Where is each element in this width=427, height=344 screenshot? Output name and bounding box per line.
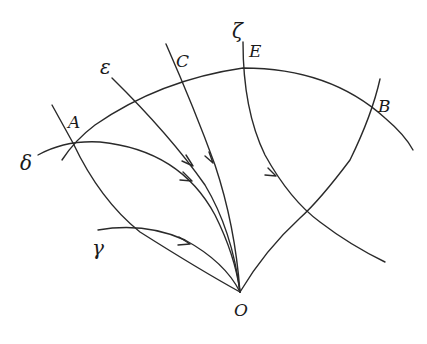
label-point-A: A: [66, 112, 80, 132]
curve-gamma: [98, 228, 240, 292]
label-point-E: E: [248, 41, 262, 61]
arc-A-C-E-B: [62, 68, 413, 160]
diagram-figure: A C E B O δ ε ζ γ: [0, 0, 427, 344]
label-gamma: γ: [92, 236, 104, 260]
label-epsilon: ε: [100, 55, 111, 79]
label-point-C: C: [176, 51, 189, 71]
label-point-O: O: [234, 300, 248, 320]
curve-zeta: [243, 42, 385, 262]
label-delta: δ: [20, 151, 32, 175]
curve-through-B-to-O: [240, 79, 380, 292]
diagram-canvas: A C E B O δ ε ζ γ: [0, 0, 427, 344]
curve-delta: [38, 142, 240, 292]
label-point-B: B: [377, 96, 391, 116]
label-zeta: ζ: [232, 19, 244, 43]
